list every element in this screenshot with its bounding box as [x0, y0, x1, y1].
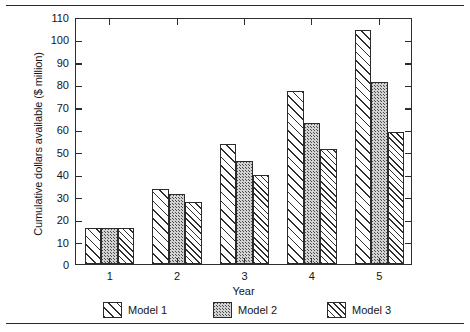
y-tick-mark-left [76, 108, 82, 109]
x-axis-tick-label: 5 [365, 270, 393, 282]
bar-model-3-year-3 [253, 175, 270, 264]
y-tick-mark-right [405, 108, 411, 109]
y-axis-tick-label: 80 [57, 79, 69, 92]
x-tick-mark-bottom [177, 258, 178, 264]
bar-model-2-year-5 [371, 82, 388, 264]
y-axis-tick-label: 60 [57, 124, 69, 137]
x-axis-tick-label: 4 [298, 270, 326, 282]
y-axis-tick-label: 40 [57, 169, 69, 182]
bar-model-3-year-1 [118, 228, 135, 264]
y-tick-mark-left [76, 86, 82, 87]
bar-model-3-year-4 [320, 149, 337, 264]
y-axis-tick-label: 110 [51, 12, 69, 25]
legend-item-model-1: Model 1 [103, 299, 167, 321]
bar-model-1-year-3 [220, 144, 237, 264]
y-axis-tick-label: 10 [57, 237, 69, 250]
y-axis-tick-label: 70 [57, 102, 69, 115]
plot-area: 010203040506070809010011012345 [75, 18, 412, 265]
x-axis-tick-label: 1 [96, 270, 124, 282]
y-axis-tick-label: 20 [57, 214, 69, 227]
y-tick-mark-right [405, 176, 411, 177]
x-tick-mark-top [311, 19, 312, 25]
y-axis-tick-label: 50 [57, 147, 69, 160]
y-tick-mark-left [76, 153, 82, 154]
figure-rule-bottom [6, 323, 464, 324]
y-tick-mark-right [405, 243, 411, 244]
y-tick-mark-right [405, 63, 411, 64]
legend-swatch-2 [213, 302, 232, 318]
x-tick-mark-top [177, 19, 178, 25]
legend-swatch-3 [327, 302, 346, 318]
y-axis-title: Cumulative dollars available ($ million) [32, 29, 44, 259]
chart-legend: Model 1Model 2Model 3 [75, 299, 412, 321]
bar-model-2-year-3 [236, 161, 253, 264]
x-tick-mark-top [244, 19, 245, 25]
x-tick-mark-bottom [109, 258, 110, 264]
y-tick-mark-right [405, 221, 411, 222]
x-axis-title: Year [75, 285, 412, 297]
x-tick-mark-top [109, 19, 110, 25]
x-tick-mark-bottom [244, 258, 245, 264]
bar-model-1-year-4 [287, 91, 304, 264]
y-tick-mark-right [405, 86, 411, 87]
y-tick-mark-left [76, 41, 82, 42]
y-tick-mark-right [405, 153, 411, 154]
y-tick-mark-right [405, 131, 411, 132]
y-tick-mark-right [405, 198, 411, 199]
y-tick-mark-left [76, 243, 82, 244]
legend-item-model-3: Model 3 [327, 299, 391, 321]
y-axis-tick-label: 30 [57, 192, 69, 205]
figure-rule-top [6, 5, 464, 6]
y-axis-tick-label: 100 [51, 34, 69, 47]
bar-model-2-year-2 [169, 194, 186, 264]
y-axis-tick-label: 0 [63, 259, 69, 272]
x-tick-mark-bottom [379, 258, 380, 264]
x-tick-mark-bottom [311, 258, 312, 264]
y-axis-tick-label: 90 [57, 57, 69, 70]
bar-model-1-year-2 [152, 189, 169, 264]
legend-label: Model 1 [128, 304, 167, 316]
legend-item-model-2: Model 2 [213, 299, 277, 321]
legend-swatch-1 [103, 302, 122, 318]
x-axis-tick-label: 2 [163, 270, 191, 282]
bar-model-3-year-2 [185, 202, 202, 264]
bar-model-1-year-1 [85, 228, 102, 264]
y-tick-mark-left [76, 63, 82, 64]
bar-model-3-year-5 [388, 132, 405, 264]
legend-label: Model 3 [352, 304, 391, 316]
y-tick-mark-left [76, 176, 82, 177]
bar-model-1-year-5 [355, 30, 372, 264]
x-tick-mark-top [379, 19, 380, 25]
y-tick-mark-left [76, 131, 82, 132]
y-tick-mark-right [405, 41, 411, 42]
legend-label: Model 2 [238, 304, 277, 316]
y-tick-mark-left [76, 221, 82, 222]
bar-model-2-year-4 [304, 123, 321, 264]
y-tick-mark-left [76, 198, 82, 199]
x-axis-tick-label: 3 [231, 270, 259, 282]
